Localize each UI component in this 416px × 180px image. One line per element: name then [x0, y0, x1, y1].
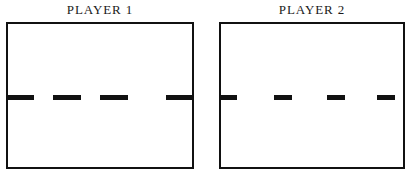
centerline-dash — [100, 95, 128, 100]
centerline-dash — [327, 95, 345, 100]
centerline-dash — [219, 95, 237, 100]
panel-title-player-2: PLAYER 2 — [208, 2, 416, 18]
centerline-dashes-player-1 — [6, 95, 194, 100]
centerline-dash — [377, 95, 395, 100]
centerline-dash — [53, 95, 81, 100]
player-comparison-figure: PLAYER 1 PLAYER 2 — [0, 0, 416, 180]
centerline-dash — [274, 95, 292, 100]
centerline-dash — [166, 95, 194, 100]
panel-player-2: PLAYER 2 — [208, 0, 416, 180]
panel-player-1: PLAYER 1 — [0, 0, 200, 180]
centerline-dashes-player-2 — [219, 95, 405, 100]
centerline-dash — [6, 95, 34, 100]
panel-title-player-1: PLAYER 1 — [0, 2, 200, 18]
